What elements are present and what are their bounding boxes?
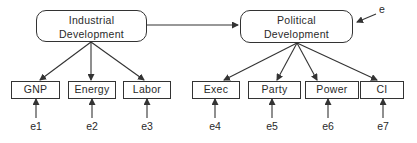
latent-label-line1: Political [241, 13, 352, 27]
error-label-e2: e2 [82, 120, 102, 132]
indicator-energy: Energy [68, 81, 116, 99]
latent-label-line1: Industrial [37, 13, 146, 27]
error-label-e5: e5 [262, 120, 282, 132]
error-label-e3: e3 [137, 120, 157, 132]
error-label-e1: e1 [26, 120, 46, 132]
error-label-e7: e7 [373, 120, 393, 132]
disturbance-arrow [357, 14, 376, 22]
indicator-gnp: GNP [11, 81, 60, 99]
latent-industrial-development: Industrial Development [36, 10, 147, 42]
error-label-e6: e6 [318, 120, 338, 132]
error-label-e4: e4 [205, 120, 225, 132]
latent-political-development: Political Development [240, 10, 353, 43]
latent-label-line2: Development [241, 27, 352, 41]
indicator-exec: Exec [192, 81, 240, 99]
latent-label-line2: Development [37, 27, 146, 41]
indicator-labor: Labor [123, 81, 171, 99]
indicator-power: Power [305, 81, 359, 99]
indicator-party: Party [248, 81, 301, 99]
indicator-ci: CI [360, 81, 404, 99]
disturbance-label: e [372, 3, 392, 15]
